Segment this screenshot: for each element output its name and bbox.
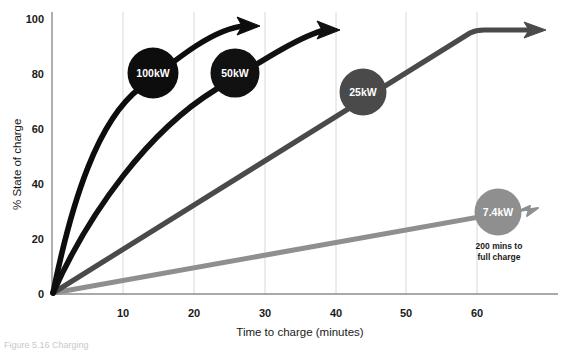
x-axis-title: Time to charge (minutes) bbox=[236, 326, 364, 338]
series-25kW bbox=[53, 22, 546, 293]
annotation-line-1: 200 mins to bbox=[476, 241, 523, 251]
arrowhead-7.4kW bbox=[519, 206, 538, 216]
x-tick-labels: 10 20 30 40 50 60 bbox=[117, 307, 483, 319]
y-tick-20: 20 bbox=[32, 233, 44, 245]
y-tick-labels: 100 80 60 40 20 0 bbox=[26, 13, 44, 300]
y-tick-60: 60 bbox=[32, 123, 44, 135]
bubble-label-7.4kW: 7.4kW bbox=[483, 206, 513, 218]
series-50kW bbox=[53, 21, 340, 293]
annotation-line-2: full charge bbox=[478, 252, 521, 262]
x-tick-40: 40 bbox=[330, 307, 342, 319]
annotation-7.4kW: 200 mins to full charge bbox=[476, 241, 523, 262]
bubble-label-25kW: 25kW bbox=[349, 86, 377, 98]
y-axis-title: % State of charge bbox=[11, 119, 23, 210]
bubble-7.4kW[interactable]: 7.4kW bbox=[475, 189, 522, 236]
bubble-label-100kW: 100kW bbox=[136, 67, 169, 79]
y-tick-0: 0 bbox=[38, 288, 44, 300]
ev-charging-rate-chart: 100 80 60 40 20 0 10 20 30 40 50 60 % St… bbox=[0, 0, 570, 353]
x-tick-50: 50 bbox=[400, 307, 412, 319]
x-tick-60: 60 bbox=[471, 307, 483, 319]
chart-page: 100 80 60 40 20 0 10 20 30 40 50 60 % St… bbox=[0, 0, 570, 353]
x-tick-20: 20 bbox=[188, 307, 200, 319]
bubble-100kW[interactable]: 100kW bbox=[128, 48, 179, 99]
y-tick-100: 100 bbox=[26, 13, 44, 25]
bubble-25kW[interactable]: 25kW bbox=[340, 69, 387, 116]
bubble-label-50kW: 50kW bbox=[221, 67, 249, 79]
gridlines bbox=[123, 12, 477, 294]
y-tick-40: 40 bbox=[32, 178, 44, 190]
y-tick-80: 80 bbox=[32, 68, 44, 80]
x-tick-30: 30 bbox=[259, 307, 271, 319]
x-tick-10: 10 bbox=[117, 307, 129, 319]
series-line-25kW bbox=[53, 30, 528, 293]
bubble-50kW[interactable]: 50kW bbox=[211, 49, 260, 98]
figure-caption: Figure 5.16 Charging bbox=[4, 340, 404, 353]
